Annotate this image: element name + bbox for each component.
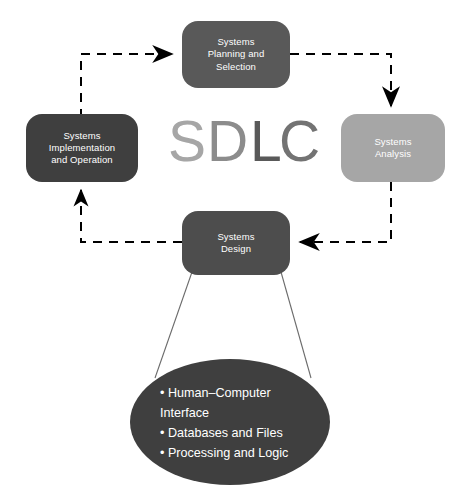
sdlc-watermark: S D L C [168,113,308,179]
sdlc-letter-s: S [168,113,206,170]
connector-design-to-detail-left [155,272,192,378]
sdlc-letter-l: L [250,113,282,170]
connector-design-to-implementation [81,190,182,242]
design-detail-list: • Human–Computer Interface • Databases a… [160,383,320,463]
sdlc-letter-c: C [279,113,320,170]
sdlc-letter-d: D [207,113,248,170]
node-systems-design[interactable] [182,211,290,275]
connector-analysis-to-design [300,182,391,242]
node-systems-analysis[interactable] [341,114,445,182]
connector-design-to-detail-right [281,272,311,378]
node-systems-planning-and-selection[interactable] [182,21,290,88]
sdlc-diagram: Systems Planning and Selection Systems A… [0,0,470,503]
node-systems-implementation-and-operation[interactable] [26,114,138,182]
connector-planning-to-analysis [290,54,391,106]
